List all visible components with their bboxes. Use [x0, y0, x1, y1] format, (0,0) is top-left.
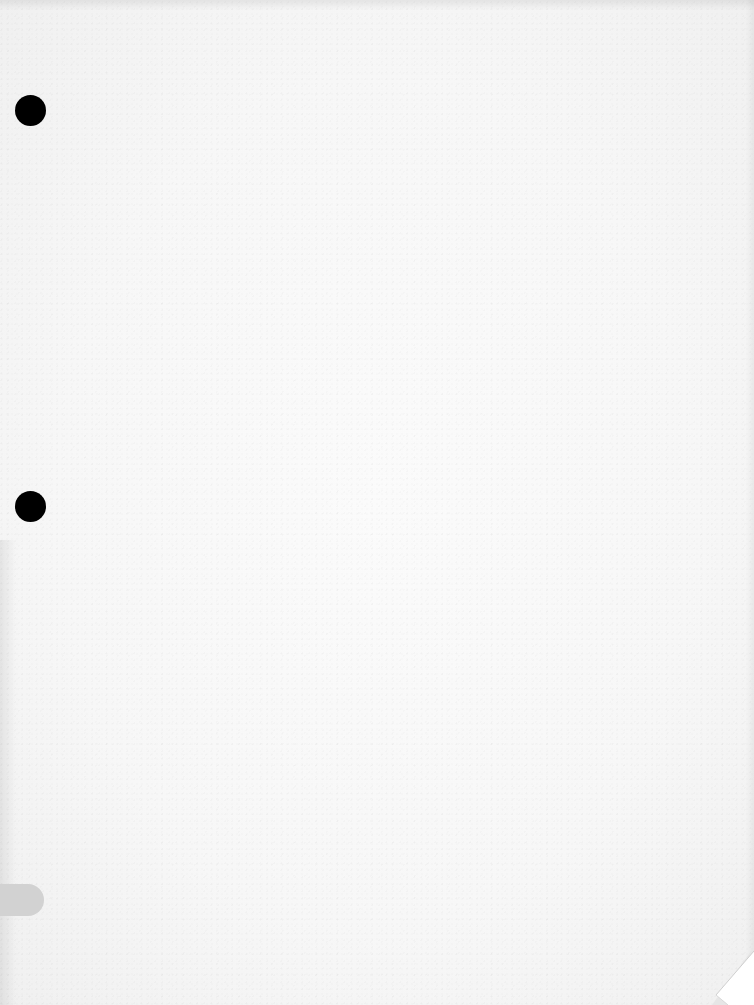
binder-tab-marker	[0, 884, 44, 916]
scanned-page	[0, 0, 754, 1005]
page-curl-corner-icon	[712, 947, 754, 1005]
punch-hole-top	[15, 95, 46, 126]
left-edge-shadow	[0, 540, 16, 1005]
punch-hole-middle	[15, 491, 46, 522]
top-edge-shadow	[0, 0, 754, 10]
right-edge-shadow	[746, 0, 754, 1005]
